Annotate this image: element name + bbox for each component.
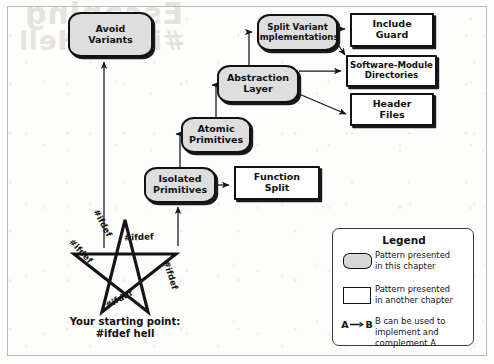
legend-swatch-rounded-pill-icon [340,250,374,269]
legend-panel: Legend Pattern presented in this chapter… [332,228,474,346]
node-abstraction-layer[interactable]: Abstraction Layer [217,65,299,103]
legend-row-pattern-this-chapter: Pattern presented in this chapter [340,250,470,272]
arrow-right-icon [350,320,365,329]
ifdef-hell-star: #ifdef #ifdef #ifdef #ifdef #ifdef Your … [52,216,198,350]
star-caption: Your starting point: #ifdef hell [52,316,198,340]
legend-swatch-a-arrow-b-icon: A B [340,316,374,330]
legend-glyph-from: A [341,319,348,330]
legend-text: Pattern presented in another chapter [374,284,453,306]
node-split-variant-implementations[interactable]: Split Variant Implementations [257,14,338,51]
legend-swatch-rectangle-icon [340,284,374,304]
node-avoid-variants[interactable]: Avoid Variants [68,12,153,57]
ifdef-label: #ifdef [124,231,154,242]
node-include-guard[interactable]: Include Guard [350,13,434,47]
legend-text: Pattern presented in this chapter [374,250,450,272]
diagram-page: Escaping #ifdef Hell [0,0,494,364]
node-header-files[interactable]: Header Files [350,93,434,126]
legend-text: B can be used to implement and complemen… [374,316,445,349]
node-atomic-primitives[interactable]: Atomic Primitives [181,117,251,153]
node-isolated-primitives[interactable]: Isolated Primitives [144,167,216,203]
legend-row-relation: A B B can be used to implement and compl… [340,316,470,349]
legend-title: Legend [333,234,475,246]
legend-glyph-to: B [366,319,373,330]
legend-row-pattern-another-chapter: Pattern presented in another chapter [340,284,470,306]
node-software-module-directories[interactable]: Software-Module Directories [346,55,437,87]
node-function-split[interactable]: Function Split [234,166,320,200]
